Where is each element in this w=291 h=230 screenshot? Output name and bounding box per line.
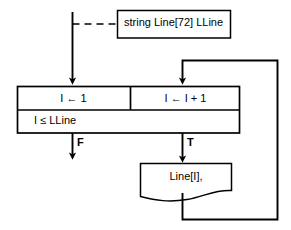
declaration-text: string Line[72] LLine — [124, 17, 223, 28]
loop-increment-text: I ← I + 1 — [131, 93, 240, 104]
true-branch-label: T — [187, 137, 194, 148]
output-text: Line[I], — [140, 171, 232, 182]
loop-condition-text: I ≤ LLine — [34, 115, 76, 126]
loop-init-text: I ← 1 — [17, 93, 130, 104]
false-branch-label: F — [77, 137, 84, 148]
flowchart-canvas: string Line[72] LLine I ← 1 I ← I + 1 I … — [0, 0, 291, 230]
